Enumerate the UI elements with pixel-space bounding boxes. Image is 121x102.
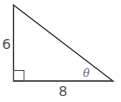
horizontal-leg-label: 8 [59,83,68,99]
right-angle-marker [14,71,25,82]
angle-theta-label: θ [83,67,90,80]
right-triangle-diagram: 6 8 θ [0,0,121,102]
vertical-leg-label: 6 [2,36,11,52]
triangle-outline [14,5,114,81]
